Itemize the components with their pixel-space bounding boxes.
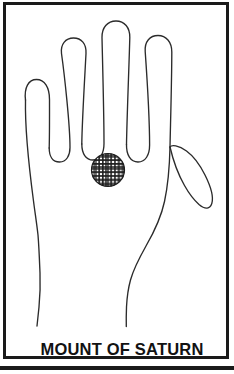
middle-finger-contour [82, 21, 130, 160]
outer-right-palm-contour [126, 147, 170, 327]
figure-card: MOUNT OF SATURN [3, 2, 229, 359]
index-finger-contour [126, 36, 171, 163]
mount-of-saturn-marker [91, 153, 125, 187]
pinky-inner-to-ring-finger [25, 100, 40, 326]
caption-band: MOUNT OF SATURN [9, 336, 234, 362]
pinky-and-left-palm-contour [25, 80, 49, 149]
figure-caption: MOUNT OF SATURN [40, 340, 203, 359]
ring-finger-contour [49, 38, 86, 162]
thumb-contour [170, 146, 212, 209]
hand-outline-diagram [6, 5, 226, 356]
bottom-margin-spacer [0, 370, 234, 374]
